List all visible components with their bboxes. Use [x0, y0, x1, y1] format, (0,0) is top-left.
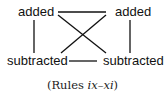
node-subtracted-right: subtracted: [103, 54, 164, 67]
node-subtracted-left: subtracted: [7, 54, 68, 67]
node-added-right: added: [115, 5, 151, 18]
caption: (Rules ix–xi): [0, 78, 165, 92]
caption-close: ): [114, 78, 119, 92]
node-added-left: added: [18, 5, 54, 18]
caption-rule-range: ix–xi: [88, 78, 114, 92]
rules-diagram: added added subtracted subtracted (Rules…: [0, 0, 165, 99]
caption-open: (Rules: [47, 78, 88, 92]
